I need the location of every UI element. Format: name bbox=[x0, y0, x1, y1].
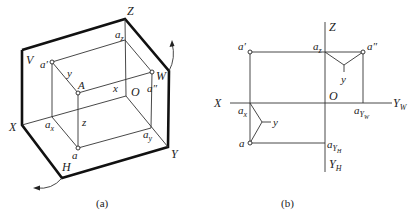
axis-oz bbox=[125, 19, 126, 96]
label-W: W bbox=[156, 69, 167, 83]
label-a-dprime: a″ bbox=[147, 82, 158, 94]
label-Z: Z bbox=[329, 20, 336, 34]
figure-a-3d-projection: Z V W X Y H O A a′ a″ a az ax ay x y z (… bbox=[8, 4, 179, 210]
figure-b-orthographic-views: Z X O YW YH a′ a″ a az ax aYW aYH y y (b… bbox=[213, 20, 408, 210]
label-O: O bbox=[329, 89, 338, 103]
point-a-prime bbox=[248, 50, 252, 54]
label-A: A bbox=[77, 79, 85, 91]
label-Y: Y bbox=[171, 147, 179, 161]
label-a-YW: aYW bbox=[354, 104, 370, 120]
label-a-z: az bbox=[115, 28, 125, 43]
label-a-z: az bbox=[313, 40, 323, 55]
label-dim-z: z bbox=[81, 116, 87, 128]
label-a-y: ay bbox=[143, 128, 153, 143]
label-a-x: ax bbox=[238, 104, 248, 119]
label-H: H bbox=[61, 160, 72, 174]
label-a-dprime: a″ bbox=[367, 40, 378, 52]
arrowhead-up-icon bbox=[170, 40, 175, 47]
label-a: a bbox=[72, 149, 78, 161]
dimension-y-bottom bbox=[250, 103, 262, 143]
frame-outline bbox=[22, 19, 169, 178]
label-Y-W: YW bbox=[393, 96, 408, 112]
dimension-y-top bbox=[325, 52, 363, 65]
label-dim-y: y bbox=[66, 67, 72, 79]
rotation-arrow-w bbox=[169, 43, 173, 71]
label-Y-H: YH bbox=[329, 157, 343, 173]
edge-aprime-az bbox=[52, 40, 125, 62]
point-a bbox=[248, 141, 252, 145]
label-dim-y-top: y bbox=[340, 73, 346, 85]
edge-a-ay bbox=[78, 128, 151, 148]
label-a-prime: a′ bbox=[238, 40, 247, 52]
label-a-prime: a′ bbox=[40, 58, 49, 70]
caption-b: (b) bbox=[281, 197, 294, 210]
label-a: a bbox=[239, 137, 245, 149]
axis-ox bbox=[22, 96, 126, 125]
label-O: O bbox=[131, 85, 140, 99]
caption-a: (a) bbox=[96, 197, 109, 210]
point-a-dprime bbox=[150, 70, 154, 74]
label-a-x: ax bbox=[45, 118, 55, 133]
edge-adprime-ay bbox=[151, 72, 152, 128]
point-a-prime bbox=[50, 60, 54, 64]
label-dim-x: x bbox=[112, 82, 118, 94]
label-a-YH: aYH bbox=[327, 138, 342, 154]
edge-aprime-A bbox=[52, 62, 78, 93]
label-Z: Z bbox=[127, 4, 134, 18]
label-X: X bbox=[213, 96, 222, 110]
arrowhead-left-icon bbox=[33, 186, 40, 191]
label-X: X bbox=[8, 120, 17, 134]
label-V: V bbox=[26, 53, 35, 67]
edge-ax-a bbox=[52, 117, 78, 148]
orthographic-projection-figure: Z V W X Y H O A a′ a″ a az ax ay x y z (… bbox=[0, 0, 410, 217]
point-A bbox=[76, 91, 80, 95]
point-a-dprime bbox=[361, 50, 365, 54]
label-dim-y-bottom: y bbox=[272, 116, 278, 128]
